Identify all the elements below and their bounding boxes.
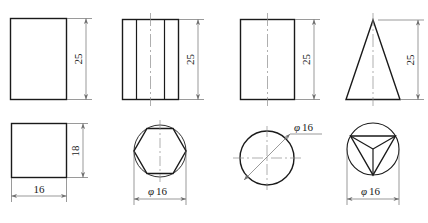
cylinder-diameter-label: 16 [302,121,314,133]
cone-height-label: 25 [404,54,416,66]
view-cone: 25 φ 16 [346,13,424,205]
cone-diameter-label: 16 [369,185,381,197]
rect-prism-width-label: 16 [34,183,46,195]
rect-prism-plan-outline [12,124,67,178]
view-cylinder: 25 φ 16 [233,13,322,190]
rect-prism-front-outline [11,19,67,100]
cylinder-height-dimension: 25 [295,20,320,100]
rect-prism-height-dimension: 25 [67,19,92,100]
rect-prism-height-label: 25 [72,53,84,65]
hex-prism-diameter-symbol: φ [148,185,154,197]
hex-prism-height-dimension: 25 [179,20,204,100]
cylinder-diameter-dimension: φ 16 [244,121,322,180]
hex-prism-height-label: 25 [184,54,196,66]
view-hexagonal-prism: 25 φ 16 [123,13,205,205]
cone-diameter-symbol: φ [361,185,367,197]
drawing-canvas: 25 18 16 [0,0,428,223]
rect-prism-depth-dimension: 18 [67,124,88,178]
cylinder-height-label: 25 [300,54,312,66]
cylinder-diameter-symbol: φ [294,121,300,133]
rect-prism-width-dimension: 16 [12,178,67,202]
view-rectangular-prism: 25 18 16 [11,19,93,203]
rect-prism-depth-label: 18 [69,145,81,157]
cone-height-dimension: 25 [378,20,424,100]
technical-drawing-sheet: 25 18 16 [0,0,428,223]
hex-prism-diameter-label: 16 [156,185,168,197]
